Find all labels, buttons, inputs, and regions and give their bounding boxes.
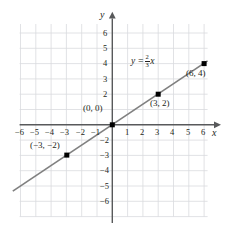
x-tick-label: −1 bbox=[91, 128, 100, 137]
grid-lines bbox=[20, 24, 208, 217]
point-marker bbox=[156, 92, 161, 97]
x-tick-label: −4 bbox=[45, 128, 54, 137]
coordinate-plane-figure: y x −6 −5 −4 −3 −2 −1 1 2 3 4 5 6 6 5 4 … bbox=[0, 0, 225, 232]
x-tick-label: 1 bbox=[125, 128, 129, 137]
graph-canvas bbox=[0, 0, 225, 232]
x-tick-label: −5 bbox=[30, 128, 39, 137]
x-tick-label: −6 bbox=[15, 128, 24, 137]
x-tick-label: −2 bbox=[76, 128, 85, 137]
y-tick-label: −3 bbox=[100, 151, 109, 160]
y-tick-label: −2 bbox=[100, 136, 109, 145]
point-label-minus3-minus2: (−3, −2) bbox=[30, 141, 60, 150]
point-marker bbox=[110, 122, 115, 127]
y-tick-label: 6 bbox=[103, 29, 107, 38]
point-label-6-4: (6, 4) bbox=[186, 69, 206, 78]
x-tick-label: 5 bbox=[186, 128, 190, 137]
x-tick-label: 4 bbox=[170, 128, 174, 137]
x-tick-label: −3 bbox=[60, 128, 69, 137]
point-marker bbox=[202, 61, 207, 66]
y-tick-label: −6 bbox=[100, 197, 109, 206]
y-axis-label: y bbox=[100, 10, 104, 20]
equation-label: y =23x bbox=[131, 54, 155, 69]
y-tick-label: 5 bbox=[103, 44, 107, 53]
y-axis-arrow bbox=[109, 12, 116, 19]
equation-variable: x bbox=[150, 56, 154, 66]
y-tick-label: 4 bbox=[103, 59, 107, 68]
y-tick-label: 3 bbox=[103, 75, 107, 84]
x-tick-label: 6 bbox=[201, 128, 205, 137]
y-tick-label: −5 bbox=[100, 182, 109, 191]
point-marker bbox=[64, 153, 69, 158]
point-label-3-2: (3, 2) bbox=[150, 99, 170, 108]
x-tick-label: 3 bbox=[155, 128, 159, 137]
x-axis-label: x bbox=[212, 128, 216, 138]
x-tick-label: 2 bbox=[140, 128, 144, 137]
point-label-origin: (0, 0) bbox=[83, 104, 103, 113]
y-tick-label: −4 bbox=[100, 166, 109, 175]
y-tick-label: 2 bbox=[103, 90, 107, 99]
equation-lhs: y = bbox=[131, 56, 144, 66]
axes bbox=[20, 12, 221, 223]
